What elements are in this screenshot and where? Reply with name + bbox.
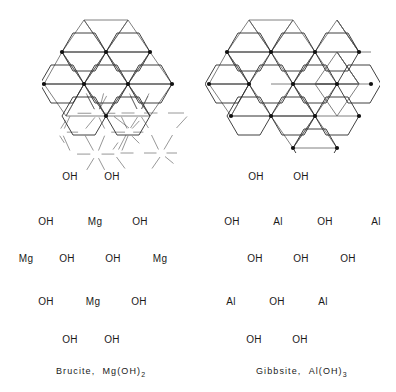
atom-label: OH bbox=[316, 217, 335, 227]
atom-label: OH bbox=[130, 297, 149, 307]
atom-label: OH bbox=[61, 172, 80, 182]
atom-label: OH bbox=[103, 172, 122, 182]
caption-mineral-name: Gibbsite, bbox=[256, 366, 301, 376]
atom-label: OH bbox=[37, 217, 56, 227]
atom-label: OH bbox=[223, 217, 242, 227]
atom-label: OH bbox=[61, 335, 80, 345]
atom-label-cation: Mg bbox=[17, 254, 35, 264]
caption-brucite: Brucite, Mg(OH)2 bbox=[56, 366, 145, 378]
atom-label-cation: Al bbox=[272, 217, 285, 227]
figure-octahedral-sheets: OH OH OH Mg OH Mg OH OH Mg OH Mg OH OH O… bbox=[0, 0, 396, 392]
atom-label: OH bbox=[104, 254, 123, 264]
caption-formula: Mg(OH) bbox=[103, 366, 142, 376]
atom-label-cation: Al bbox=[370, 217, 383, 227]
atom-label: OH bbox=[291, 335, 310, 345]
atom-label: OH bbox=[268, 297, 287, 307]
atom-label: OH bbox=[103, 335, 122, 345]
caption-formula-subscript: 3 bbox=[343, 371, 347, 378]
gibbsite-sheet-outline bbox=[205, 33, 380, 153]
caption-mineral-name: Brucite, bbox=[56, 366, 95, 376]
atom-label: OH bbox=[58, 254, 77, 264]
caption-formula: Al(OH) bbox=[309, 366, 343, 376]
atom-label: OH bbox=[246, 254, 265, 264]
atom-label: OH bbox=[292, 254, 311, 264]
atom-label-cation: Mg bbox=[84, 297, 102, 307]
atom-label-cation: Al bbox=[317, 297, 330, 307]
atom-label-cation: Al bbox=[225, 297, 238, 307]
atom-label: OH bbox=[247, 172, 266, 182]
caption-gibbsite: Gibbsite, Al(OH)3 bbox=[256, 366, 347, 378]
atom-label: OH bbox=[339, 254, 358, 264]
structural-formula-gibbsite bbox=[0, 0, 198, 200]
atom-label: OH bbox=[37, 297, 56, 307]
atom-label-cation: Mg bbox=[151, 254, 169, 264]
atom-label: OH bbox=[292, 172, 311, 182]
caption-formula-subscript: 2 bbox=[141, 371, 145, 378]
gibbsite-octahedra-inner-edges bbox=[209, 20, 371, 148]
polyhedral-sheet-gibbsite bbox=[205, 8, 380, 153]
gibbsite-bonds bbox=[113, 94, 187, 169]
atom-label-cation: Mg bbox=[86, 217, 104, 227]
atom-label: OH bbox=[131, 217, 150, 227]
atom-label: OH bbox=[245, 335, 264, 345]
